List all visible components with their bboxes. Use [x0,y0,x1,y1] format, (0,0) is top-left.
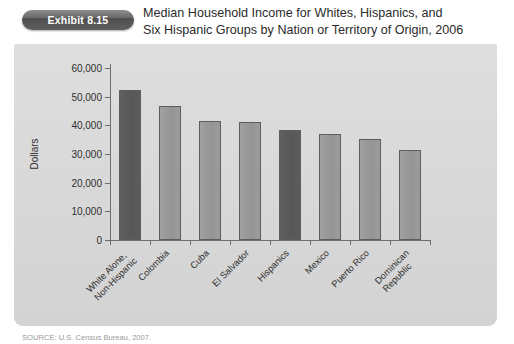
x-tick [350,240,351,245]
bar-chart: Dollars 010,00020,00030,00040,00050,0006… [110,68,450,240]
page-title: Median Household Income for Whites, Hisp… [143,5,508,38]
y-tick-label: 40,000 [71,120,102,131]
bar [199,121,221,240]
y-tick-label: 0 [96,235,102,246]
x-tick [390,240,391,245]
title-line-2: Six Hispanic Groups by Nation or Territo… [143,22,508,39]
y-axis-line [110,64,111,244]
y-tick [105,211,110,212]
bar [359,139,381,240]
y-tick [105,154,110,155]
exhibit-header: Exhibit 8.15 Median Household Income for… [0,0,514,46]
x-tick [190,240,191,245]
x-tick [110,240,111,245]
bar [119,90,141,240]
y-tick-label: 30,000 [71,149,102,160]
y-tick [105,68,110,69]
bar [399,150,421,240]
bar [319,134,341,240]
x-tick [310,240,311,245]
x-tick [270,240,271,245]
exhibit-badge: Exhibit 8.15 [22,10,134,30]
y-tick-label: 50,000 [71,91,102,102]
y-tick-label: 60,000 [71,63,102,74]
y-tick-label: 20,000 [71,177,102,188]
x-tick [230,240,231,245]
y-tick [105,97,110,98]
x-tick [150,240,151,245]
chart-panel: Dollars 010,00020,00030,00040,00050,0006… [14,44,497,326]
bar [239,122,261,240]
y-tick [105,125,110,126]
title-line-1: Median Household Income for Whites, Hisp… [143,5,508,22]
y-tick [105,183,110,184]
bar [159,106,181,240]
source-note: SOURCE: U.S. Census Bureau, 2007. [22,333,151,342]
x-tick [430,240,431,245]
y-tick-label: 10,000 [71,206,102,217]
y-axis-title: Dollars [29,138,40,169]
bar [279,130,301,240]
